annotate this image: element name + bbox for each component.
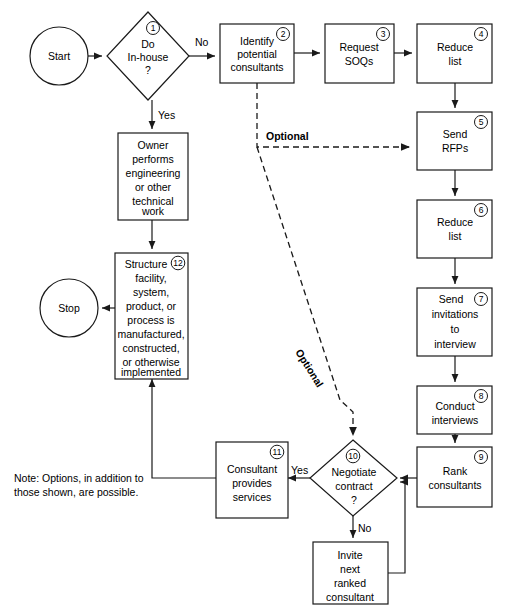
rfps-label-line2: RFPs (442, 142, 468, 154)
invite-label-line2: next (340, 563, 360, 575)
decision10-label-line3: ? (351, 494, 357, 506)
node-send-invitations[interactable]: Send invitations to interview 7 (417, 288, 492, 356)
note-line-1: Note: Options, in addition to (14, 472, 144, 484)
node-decision-negotiate-contract[interactable]: Negotiate contract ? 10 (310, 440, 397, 516)
edge-label-yes-top: Yes (158, 109, 175, 121)
edge-optional-identify-to-decision10 (257, 147, 353, 436)
conduct-label-line1: Conduct (435, 400, 474, 412)
structure-label-line5: process is (127, 314, 174, 326)
node-reduce-list-4[interactable]: Reduce list 4 (417, 24, 492, 83)
rank-badge: 9 (479, 452, 484, 462)
reduce4-label-line2: list (449, 55, 462, 67)
rank-label-line1: Rank (443, 465, 468, 477)
identify-label-line1: Identify (240, 35, 275, 47)
reduce6-label-line2: list (449, 230, 462, 242)
decision10-label-line2: contract (335, 480, 372, 492)
conduct-badge: 8 (479, 391, 484, 401)
decision10-badge: 10 (348, 451, 358, 461)
owner-label-line2: performs (132, 153, 173, 165)
flowchart-page: Start Do In-house ? 1 Owner performs eng… (0, 0, 514, 610)
edge-label-no-top: No (195, 36, 209, 48)
request-label-line1: Request (339, 41, 378, 53)
note-line-2: those shown, are possible. (14, 486, 138, 498)
request-label-line2: SOQs (345, 55, 374, 67)
identify-badge: 2 (281, 29, 286, 39)
reduce4-label-line1: Reduce (437, 41, 473, 53)
edge-label-no-bottom: No (358, 522, 372, 534)
services-badge: 11 (273, 447, 282, 457)
structure-label-line6: manufactured, (117, 328, 184, 340)
conduct-label-line2: interviews (432, 414, 479, 426)
request-badge: 3 (381, 29, 386, 39)
edge-services-to-structure (152, 379, 216, 478)
reduce6-label-line1: Reduce (437, 216, 473, 228)
flowchart-canvas: Start Do In-house ? 1 Owner performs eng… (0, 0, 514, 610)
invitations-label-line2: invitations (432, 308, 479, 320)
node-structure-facility[interactable]: Structure facility, system, product, or … (115, 253, 188, 379)
node-reduce-list-6[interactable]: Reduce list 6 (417, 200, 492, 258)
invite-label-line4: consultant (326, 591, 374, 603)
services-label-line1: Consultant (227, 463, 277, 475)
services-label-line3: services (233, 491, 272, 503)
owner-label-line6: work (141, 205, 165, 217)
invitations-label-line4: interview (434, 338, 476, 350)
decision1-badge: 1 (151, 23, 156, 33)
structure-label-line2: facility, (135, 272, 166, 284)
invitations-label-line3: to (451, 323, 460, 335)
node-start[interactable]: Start (30, 27, 88, 85)
node-identify-consultants[interactable]: Identify potential consultants 2 (220, 24, 294, 83)
node-owner-performs[interactable]: Owner performs engineering or other tech… (118, 133, 188, 220)
services-label-line2: provides (232, 477, 272, 489)
node-consultant-provides-services[interactable]: Consultant provides services 11 (216, 442, 288, 518)
decision1-label-line1: Do (141, 38, 155, 50)
node-conduct-interviews[interactable]: Conduct interviews 8 (417, 386, 492, 434)
node-request-soqs[interactable]: Request SOQs 3 (325, 24, 394, 83)
stop-label: Stop (58, 302, 80, 314)
structure-label-line1: Structure (125, 258, 168, 270)
rfps-badge: 5 (479, 117, 484, 127)
edge-invite-to-decision10 (388, 482, 405, 573)
start-label: Start (48, 50, 70, 62)
structure-label-line3: system, (133, 286, 169, 298)
optional-label-horizontal: Optional (266, 130, 309, 142)
structure-label-line7: constructed, (122, 342, 179, 354)
rank-label-line2: consultants (428, 479, 481, 491)
reduce4-badge: 4 (479, 29, 484, 39)
invitations-badge: 7 (479, 294, 484, 304)
structure-badge: 12 (173, 258, 183, 268)
decision1-label-line3: ? (145, 64, 151, 76)
node-rank-consultants[interactable]: Rank consultants 9 (417, 447, 492, 507)
edge-label-yes-bottom: Yes (291, 464, 308, 476)
node-invite-next-ranked[interactable]: Invite next ranked consultant (313, 542, 388, 604)
structure-label-line4: product, or (126, 300, 177, 312)
invite-label-line3: ranked (334, 577, 366, 589)
rfps-label-line1: Send (443, 128, 468, 140)
invite-label-line1: Invite (337, 549, 362, 561)
identify-label-line2: potential (237, 48, 277, 60)
owner-label-line3: engineering (126, 167, 181, 179)
owner-label-line4: or other (135, 181, 172, 193)
owner-label-line1: Owner (138, 139, 169, 151)
node-decision-in-house[interactable]: Do In-house ? 1 (107, 12, 189, 100)
identify-label-line3: consultants (230, 61, 283, 73)
node-send-rfps[interactable]: Send RFPs 5 (417, 112, 492, 170)
structure-label-line9: implemented (121, 366, 181, 378)
decision10-label-line1: Negotiate (332, 466, 377, 478)
node-stop[interactable]: Stop (40, 279, 98, 337)
reduce6-badge: 6 (479, 205, 484, 215)
optional-label-diagonal: Optional (293, 347, 326, 390)
invitations-label-line1: Send (439, 293, 464, 305)
decision1-label-line2: In-house (128, 51, 169, 63)
